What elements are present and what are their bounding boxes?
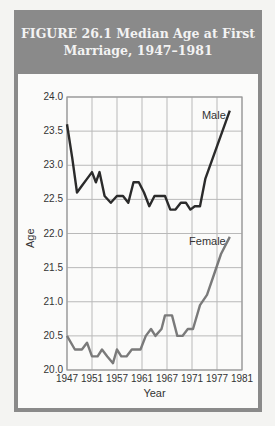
y-axis-label: Age xyxy=(24,228,36,248)
series-female-label: Female xyxy=(189,235,226,247)
x-tick-label: 1957 xyxy=(106,373,129,384)
y-tick-label: 21.0 xyxy=(44,296,64,307)
x-tick-label: 1971 xyxy=(181,373,204,384)
figure-title: FIGURE 26.1 Median Age at First Marriage… xyxy=(14,10,262,74)
y-tick-label: 23.5 xyxy=(44,125,64,136)
y-tick-label: 23.0 xyxy=(44,159,64,170)
series-male-label: Male xyxy=(202,109,226,121)
y-tick-label: 22.0 xyxy=(44,228,64,239)
y-tick-label: 21.5 xyxy=(44,262,64,273)
x-axis-label: Year xyxy=(143,387,166,399)
figure-title-line1: FIGURE 26.1 Median Age at First xyxy=(14,25,262,42)
y-tick-label: 22.5 xyxy=(44,193,64,204)
x-tick-label: 1981 xyxy=(231,373,254,384)
y-tick-label: 24.0 xyxy=(44,91,64,102)
y-tick-label: 20.5 xyxy=(44,330,64,341)
line-chart: 20.020.521.021.522.022.523.023.524.01947… xyxy=(18,74,258,408)
x-tick-label: 1977 xyxy=(206,373,229,384)
series-male-line xyxy=(67,111,230,210)
chart-panel: 20.020.521.021.522.022.523.023.524.01947… xyxy=(18,74,258,408)
x-tick-label: 1947 xyxy=(56,373,79,384)
series-female-line xyxy=(67,237,230,363)
figure-frame: FIGURE 26.1 Median Age at First Marriage… xyxy=(14,10,262,412)
x-tick-label: 1967 xyxy=(156,373,179,384)
x-tick-label: 1961 xyxy=(131,373,154,384)
x-tick-label: 1951 xyxy=(81,373,104,384)
figure-title-line2: Marriage, 1947–1981 xyxy=(14,42,262,59)
